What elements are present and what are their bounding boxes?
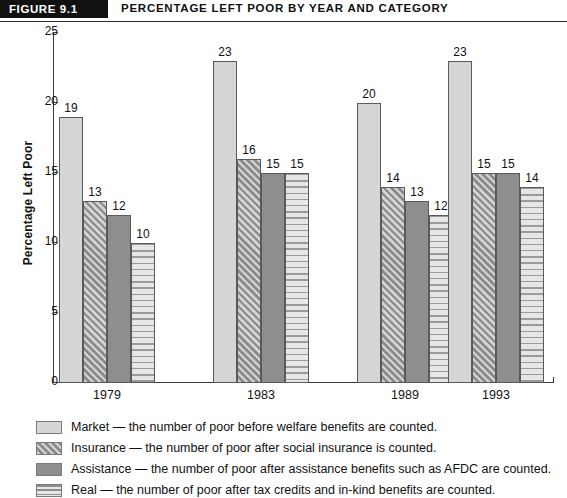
bar-value-label: 15 xyxy=(473,157,495,171)
bar-value-label: 16 xyxy=(238,143,260,157)
bar-insurance-1989: 14 xyxy=(381,187,405,383)
x-tick-label-1983: 1983 xyxy=(213,388,309,402)
figure-number-banner: FIGURE 9.1 xyxy=(0,0,108,18)
x-tick-label-1989: 1989 xyxy=(357,388,453,402)
bar-value-label: 12 xyxy=(108,199,130,213)
bar-value-label: 19 xyxy=(60,101,82,115)
bars-container: 19131210231615152014131223151514 xyxy=(0,24,567,406)
chart-plot-area: Percentage Left Poor 0510152025 19131210… xyxy=(0,24,567,406)
bar-assist-1989: 13 xyxy=(405,201,429,383)
bar-assist-1979: 12 xyxy=(107,215,131,383)
bar-value-label: 20 xyxy=(358,87,380,101)
legend-label-insurance: Insurance — the number of poor after soc… xyxy=(71,441,436,455)
bar-insurance-1993: 15 xyxy=(472,173,496,383)
bar-value-label: 13 xyxy=(84,185,106,199)
bar-assist-1993: 15 xyxy=(496,173,520,383)
bar-market-1983: 23 xyxy=(213,61,237,383)
bar-value-label: 15 xyxy=(262,157,284,171)
legend-label-market: Market — the number of poor before welfa… xyxy=(71,420,437,434)
bar-value-label: 23 xyxy=(449,45,471,59)
bar-market-1993: 23 xyxy=(448,61,472,383)
bar-market-1979: 19 xyxy=(59,117,83,383)
bar-value-label: 23 xyxy=(214,45,236,59)
bar-market-1989: 20 xyxy=(357,103,381,383)
legend-item-market: Market — the number of poor before welfa… xyxy=(36,418,437,436)
legend-swatch-insurance xyxy=(36,442,62,455)
legend-swatch-real xyxy=(36,484,62,497)
bar-real-1993: 14 xyxy=(520,187,544,383)
bar-value-label: 14 xyxy=(382,171,404,185)
chart-legend: Market — the number of poor before welfa… xyxy=(0,412,567,498)
legend-label-real: Real — the number of poor after tax cred… xyxy=(71,483,496,497)
bar-real-1983: 15 xyxy=(285,173,309,383)
bar-insurance-1983: 16 xyxy=(237,159,261,383)
legend-item-insurance: Insurance — the number of poor after soc… xyxy=(36,439,436,457)
figure-header: FIGURE 9.1 PERCENTAGE LEFT POOR BY YEAR … xyxy=(0,0,567,22)
x-tick-label-1979: 1979 xyxy=(59,388,155,402)
x-tick-label-1993: 1993 xyxy=(448,388,544,402)
bar-value-label: 14 xyxy=(521,171,543,185)
bar-insurance-1979: 13 xyxy=(83,201,107,383)
bar-value-label: 13 xyxy=(406,185,428,199)
bar-value-label: 15 xyxy=(286,157,308,171)
page-title: PERCENTAGE LEFT POOR BY YEAR AND CATEGOR… xyxy=(121,2,448,14)
header-divider xyxy=(0,21,567,22)
bar-value-label: 15 xyxy=(497,157,519,171)
legend-label-assistance: Assistance — the number of poor after as… xyxy=(71,462,551,476)
bar-assist-1983: 15 xyxy=(261,173,285,383)
bar-value-label: 10 xyxy=(132,227,154,241)
legend-item-assistance: Assistance — the number of poor after as… xyxy=(36,460,551,478)
bar-real-1979: 10 xyxy=(131,243,155,383)
legend-item-real: Real — the number of poor after tax cred… xyxy=(36,481,496,498)
legend-swatch-market xyxy=(36,421,62,434)
legend-swatch-assistance xyxy=(36,463,62,476)
